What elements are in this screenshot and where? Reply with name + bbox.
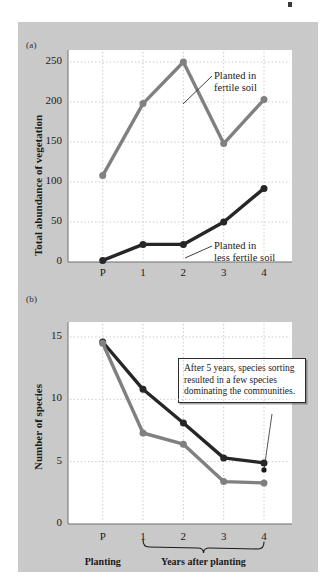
figure-container: (a) (b) Total abundance of vegetation Nu… [0, 0, 336, 587]
data-point [140, 430, 147, 437]
planting-axis-label: Planting [85, 556, 121, 567]
callout-leader-lines [183, 76, 272, 473]
figure-vector-layer [0, 0, 336, 587]
data-point [180, 59, 187, 66]
data-point [99, 172, 106, 179]
data-point [220, 219, 227, 226]
years-after-planting-axis-label: Years after planting [161, 556, 246, 567]
data-point [261, 459, 268, 466]
data-point [140, 100, 147, 107]
axis-lines [68, 50, 292, 524]
data-point [220, 454, 227, 461]
data-point [140, 386, 147, 393]
years-after-planting-brace [143, 540, 264, 553]
data-point [180, 241, 187, 248]
panel-a-gridlines [70, 52, 290, 260]
data-point [99, 257, 106, 264]
data-point [261, 96, 268, 103]
data-point [261, 185, 268, 192]
data-point [220, 478, 227, 485]
data-point [99, 340, 106, 347]
data-point [180, 441, 187, 448]
data-point [220, 140, 227, 147]
data-point [140, 241, 147, 248]
data-point [261, 479, 268, 486]
data-point [180, 420, 187, 427]
